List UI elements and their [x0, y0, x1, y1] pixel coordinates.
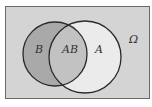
set-a-label: A	[94, 43, 103, 56]
set-b-label: B	[34, 43, 43, 56]
intersection-label: AB	[61, 43, 78, 56]
universe-label: Ω	[128, 33, 138, 46]
venn-diagram: B AB A Ω	[0, 0, 152, 107]
